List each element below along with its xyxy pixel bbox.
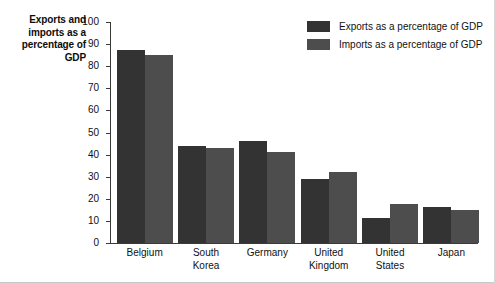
- y-axis-tick-label: 90: [88, 39, 99, 49]
- bar-imports: [145, 55, 173, 243]
- x-axis-category-labels: BelgiumSouthKoreaGermanyUnitedKingdomUni…: [110, 247, 478, 281]
- y-axis-tick-label: 40: [88, 150, 99, 160]
- y-axis-tick-label: 100: [82, 17, 99, 27]
- y-axis-tick-label: 0: [93, 238, 99, 248]
- y-axis-tick-label: 50: [88, 128, 99, 138]
- x-axis-category-label-line: Japan: [438, 247, 465, 258]
- bar-imports: [206, 148, 234, 243]
- bar-imports: [451, 210, 479, 243]
- bar-exports: [362, 218, 390, 243]
- bar-groups: [110, 22, 478, 243]
- x-axis-category-label-line: Belgium: [127, 247, 163, 258]
- y-axis-tick-label: 10: [88, 216, 99, 226]
- legend-item: Exports as a percentage of GDP: [307, 19, 483, 34]
- legend-item: Imports as a percentage of GDP: [307, 37, 483, 52]
- bar-group: [117, 22, 173, 243]
- y-axis-tick-label: 80: [88, 61, 99, 71]
- y-axis-title-line: GDP: [65, 52, 86, 63]
- legend-swatch-exports: [307, 21, 330, 32]
- bar-imports: [329, 172, 357, 243]
- y-axis-tick-label: 70: [88, 83, 99, 93]
- y-axis-tick-label: 30: [88, 172, 99, 182]
- x-axis-category-label-line: Korea: [193, 260, 220, 271]
- bar-group: [239, 22, 295, 243]
- bar-group: [423, 22, 479, 243]
- bar-exports: [423, 207, 451, 243]
- y-axis-title-line: percentage of: [22, 39, 86, 50]
- bar-exports: [301, 179, 329, 243]
- plot-area: 1009080706050403020100: [110, 22, 478, 243]
- legend-label: Exports as a percentage of GDP: [339, 21, 483, 32]
- x-axis-category-label-line: United: [314, 247, 343, 258]
- x-axis-category-label: Japan: [409, 247, 493, 260]
- bar-group: [178, 22, 234, 243]
- x-axis-category-label-line: States: [376, 260, 404, 271]
- legend: Exports as a percentage of GDPImports as…: [307, 19, 483, 55]
- y-axis-title: Exports andimports as apercentage ofGDP: [2, 14, 86, 64]
- bar-group: [301, 22, 357, 243]
- y-axis-tick-label: 60: [88, 105, 99, 115]
- x-axis-category-label-line: United: [376, 247, 405, 258]
- x-axis-category-label-line: South: [193, 247, 219, 258]
- legend-label: Imports as a percentage of GDP: [339, 39, 482, 50]
- bar-chart-figure: Exports andimports as apercentage ofGDP …: [0, 0, 495, 283]
- bar-imports: [390, 204, 418, 243]
- x-axis-category-label-line: Germany: [247, 247, 288, 258]
- y-axis-tick-label: 20: [88, 194, 99, 204]
- x-axis-category-label-line: Kingdom: [309, 260, 348, 271]
- x-axis-line: [110, 243, 478, 244]
- bar-exports: [178, 146, 206, 243]
- y-axis-tick: 0: [106, 243, 111, 244]
- bar-imports: [267, 152, 295, 243]
- y-axis-title-line: Exports and: [29, 14, 86, 25]
- bar-exports: [239, 141, 267, 243]
- bar-group: [362, 22, 418, 243]
- legend-swatch-imports: [307, 39, 330, 50]
- bar-exports: [117, 50, 145, 243]
- y-axis-title-line: imports as a: [28, 27, 86, 38]
